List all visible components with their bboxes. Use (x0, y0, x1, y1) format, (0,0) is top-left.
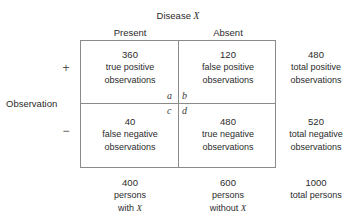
cell-b-line1: false positive (202, 61, 254, 74)
cell-d-letter: d (182, 106, 187, 116)
cell-d: 480 true negative observations (202, 115, 254, 154)
column-total-absent-line2-prefix: without (210, 203, 241, 213)
cell-a-line2: observations (104, 74, 155, 87)
row-total-negative-line2: observations (289, 141, 343, 154)
row-total-positive-line2: observations (290, 74, 341, 87)
row-sign-negative: − (62, 125, 69, 137)
cell-d-line1: true negative (202, 128, 254, 141)
cell-c-letter: c (167, 106, 171, 116)
cell-b-line2: observations (202, 74, 254, 87)
column-total-present-line1: persons (114, 189, 146, 202)
grand-total-count: 1000 (290, 176, 342, 189)
table-border-right (275, 40, 276, 168)
column-total-present-line2-prefix: with (118, 203, 137, 213)
column-header-present: Present (114, 28, 147, 38)
grand-total: 1000 total persons (290, 176, 342, 202)
cell-a-letter: a (167, 91, 172, 101)
row-total-negative-count: 520 (289, 115, 343, 128)
cell-c-line1: false negative (102, 128, 158, 141)
cell-c-line2: observations (102, 141, 158, 154)
column-total-absent-line2: without X (210, 202, 247, 215)
cell-b: 120 false positive observations (202, 48, 254, 87)
cell-c-count: 40 (102, 115, 158, 128)
row-total-positive: 480 total positive observations (290, 48, 341, 87)
column-group-title-variable: X (194, 11, 200, 21)
column-total-absent-line1: persons (210, 189, 247, 202)
row-group-title: Observation (6, 99, 57, 109)
column-total-present-count: 400 (114, 176, 146, 189)
row-total-negative: 520 total negative observations (289, 115, 343, 154)
column-total-present-line2: with X (114, 202, 146, 215)
cell-a-line1: true positive (104, 61, 155, 74)
column-total-absent-count: 600 (210, 176, 247, 189)
column-total-present: 400 persons with X (114, 176, 146, 215)
cell-b-count: 120 (202, 48, 254, 61)
table-divider-vertical (178, 40, 179, 168)
row-total-positive-line1: total positive (290, 61, 341, 74)
row-total-positive-count: 480 (290, 48, 341, 61)
column-header-absent: Absent (213, 28, 243, 38)
cell-d-count: 480 (202, 115, 254, 128)
column-total-absent-line2-variable: X (241, 203, 247, 213)
column-total-absent: 600 persons without X (210, 176, 247, 215)
cell-a-count: 360 (104, 48, 155, 61)
cell-d-line2: observations (202, 141, 254, 154)
row-total-negative-line1: total negative (289, 128, 343, 141)
grand-total-label: total persons (290, 189, 342, 202)
column-group-title-text: Disease (157, 10, 191, 21)
cell-a: 360 true positive observations (104, 48, 155, 87)
column-total-present-line2-variable: X (137, 203, 143, 213)
table-border-left (80, 40, 81, 168)
cell-b-letter: b (182, 91, 187, 101)
column-group-title: Disease X (157, 11, 200, 22)
row-sign-positive: + (62, 62, 69, 74)
cell-c: 40 false negative observations (102, 115, 158, 154)
contingency-table-figure: Disease X Present Absent Observation + −… (0, 0, 356, 224)
